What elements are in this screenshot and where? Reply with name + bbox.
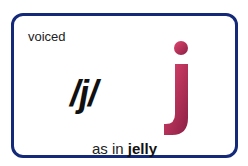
letter-j-icon	[158, 38, 198, 138]
caption-prefix: as in	[92, 140, 124, 157]
phoneme-symbol: /j/	[70, 74, 97, 114]
phonics-card: voiced /j/ as in jelly	[11, 13, 238, 158]
example-word: jelly	[128, 140, 157, 157]
category-label: voiced	[28, 29, 66, 44]
example-caption: as in jelly	[14, 140, 235, 157]
